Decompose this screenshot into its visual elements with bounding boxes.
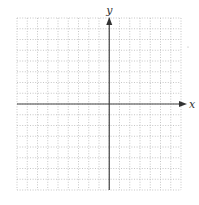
stray-dot [187,46,188,47]
y-axis-label: y [105,4,113,17]
x-axis-label: x [189,98,196,111]
axes: x y [17,4,196,190]
x-axis-arrow-icon [179,101,187,107]
coordinate-plane: x y [0,0,199,205]
